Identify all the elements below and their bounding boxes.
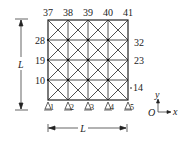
svg-text:41: 41 bbox=[123, 7, 133, 18]
svg-text:23: 23 bbox=[134, 55, 144, 66]
truss-diagram: 37 38 39 40 41 28 19 10 32 23 14 L 1 2 3… bbox=[0, 0, 191, 145]
svg-text:10: 10 bbox=[35, 75, 45, 86]
axis-y-label: y bbox=[154, 89, 160, 100]
svg-text:28: 28 bbox=[35, 35, 45, 46]
svg-text:19: 19 bbox=[35, 55, 45, 66]
support-labels: 1 2 3 4 5 bbox=[50, 103, 134, 112]
svg-text:1: 1 bbox=[50, 103, 54, 112]
svg-text:5: 5 bbox=[130, 103, 134, 112]
axis-x-label: x bbox=[172, 106, 178, 117]
top-node-labels: 37 38 39 40 41 bbox=[43, 7, 133, 18]
right-node-labels: 32 23 14 bbox=[133, 37, 144, 93]
svg-text:32: 32 bbox=[134, 37, 144, 48]
svg-text:39: 39 bbox=[83, 7, 93, 18]
svg-text:4: 4 bbox=[110, 103, 114, 112]
dimension-label-vertical: L bbox=[17, 59, 24, 70]
svg-text:2: 2 bbox=[70, 103, 74, 112]
axis-icon bbox=[157, 99, 172, 114]
left-node-labels: 28 19 10 bbox=[35, 35, 45, 86]
svg-text:14: 14 bbox=[133, 82, 143, 93]
svg-text:40: 40 bbox=[103, 7, 113, 18]
svg-text:37: 37 bbox=[43, 7, 53, 18]
svg-text:3: 3 bbox=[90, 103, 94, 112]
horizontal-dimension bbox=[48, 124, 127, 132]
supports bbox=[44, 102, 132, 110]
svg-text:38: 38 bbox=[63, 7, 73, 18]
axis-origin-label: O bbox=[148, 107, 155, 118]
dimension-label-horizontal: L bbox=[79, 123, 86, 134]
